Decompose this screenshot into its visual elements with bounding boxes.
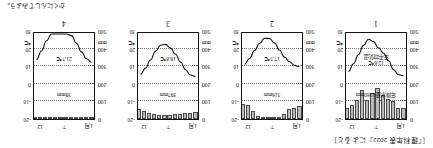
temperature-unit-label: ℃ xyxy=(232,40,239,46)
precipitation-tick-label: 100 xyxy=(306,99,314,105)
month-axis: 1月712 xyxy=(137,120,199,130)
precipitation-tick-label: 300 xyxy=(410,64,418,70)
month-tick-label: 12 xyxy=(245,124,251,130)
temperature-curve xyxy=(346,33,406,119)
month-tick-label: 7 xyxy=(375,124,378,130)
precipitation-tick-label: 500 xyxy=(410,29,418,35)
annual-precipitation-label: 38mm xyxy=(33,92,95,98)
temperature-tick-label: 0 xyxy=(236,82,239,88)
plot-area xyxy=(137,32,199,120)
temperature-tick-label: 0 xyxy=(340,82,343,88)
climograph-number-caption: 4 xyxy=(33,19,95,28)
temperature-tick-label: 30 xyxy=(233,29,239,35)
temperature-tick-label: -10 xyxy=(336,99,343,105)
climograph-row: 1月7120100200300400500mm-20-100102030℃年降水… xyxy=(0,6,433,136)
precipitation-tick-label: 100 xyxy=(98,99,106,105)
temperature-tick-label: 30 xyxy=(129,29,135,35)
climograph-1: 1月7120100200300400500mm-20-100102030℃年降水… xyxy=(329,8,433,136)
precipitation-unit-label: mm xyxy=(410,40,419,46)
temperature-tick-label: 20 xyxy=(337,47,343,53)
precipitation-axis: 0100200300400500mm xyxy=(96,26,121,126)
precipitation-unit-label: mm xyxy=(202,40,211,46)
temperature-tick-label: 10 xyxy=(233,64,239,70)
temperature-tick-label: 20 xyxy=(129,47,135,53)
annual-mean-temperature-label: 12.6℃年平均気温 xyxy=(345,54,407,66)
precipitation-axis: 0100200300400500mm xyxy=(408,26,433,126)
precipitation-tick-label: 500 xyxy=(98,29,106,35)
precipitation-tick-label: 0 xyxy=(98,117,101,123)
precipitation-tick-label: 400 xyxy=(306,47,314,53)
temperature-tick-label: 10 xyxy=(337,64,343,70)
precipitation-tick-label: 300 xyxy=(98,64,106,70)
month-tick-label: 7 xyxy=(167,124,170,130)
annual-mean-temperature-label: 21.7℃ xyxy=(33,56,95,62)
temperature-axis: -20-100102030℃ xyxy=(16,26,32,126)
precipitation-axis: 0100200300400500mm xyxy=(200,26,225,126)
annual-precipitation-label: 516mm xyxy=(241,92,303,98)
annual-mean-temperature-label-line2: 12.6℃ xyxy=(345,60,407,66)
plot-area xyxy=(241,32,303,120)
annual-mean-temperature-label: 18.8℃ xyxy=(137,56,199,62)
month-tick-label: 1月 xyxy=(396,122,405,130)
temperature-tick-label: 20 xyxy=(233,47,239,53)
temperature-tick-label: -20 xyxy=(232,117,239,123)
precipitation-tick-label: 400 xyxy=(98,47,106,53)
temperature-curve xyxy=(34,33,94,119)
figure-rotation-wrapper: ［『理科年表 2022』によると］ かくにんしてみよう。 1月712010020… xyxy=(0,0,433,148)
precipitation-unit-label: mm xyxy=(306,40,315,46)
precipitation-tick-label: 500 xyxy=(202,29,210,35)
temperature-tick-label: -20 xyxy=(128,117,135,123)
plot-area xyxy=(345,32,407,120)
temperature-tick-label: 30 xyxy=(25,29,31,35)
month-tick-label: 12 xyxy=(37,124,43,130)
precipitation-tick-label: 200 xyxy=(98,82,106,88)
climograph-number-caption: 1 xyxy=(345,19,407,28)
temperature-tick-label: 30 xyxy=(337,29,343,35)
temperature-curve xyxy=(242,33,302,119)
month-tick-label: 7 xyxy=(63,124,66,130)
figure-source-caption: ［『理科年表 2022』によると］ xyxy=(330,136,429,146)
month-axis: 1月712 xyxy=(33,120,95,130)
month-tick-label: 1月 xyxy=(292,122,301,130)
temperature-tick-label: -20 xyxy=(24,117,31,123)
temperature-unit-label: ℃ xyxy=(24,40,31,46)
temperature-tick-label: -10 xyxy=(232,99,239,105)
month-tick-label: 1月 xyxy=(188,122,197,130)
temperature-unit-label: ℃ xyxy=(336,40,343,46)
temperature-axis: -20-100102030℃ xyxy=(224,26,240,126)
temperature-tick-label: 20 xyxy=(25,47,31,53)
climograph-number-caption: 2 xyxy=(241,19,303,28)
plot-area xyxy=(33,32,95,120)
precipitation-tick-label: 200 xyxy=(202,82,210,88)
temperature-curve xyxy=(138,33,198,119)
month-axis: 1月712 xyxy=(345,120,407,130)
precipitation-tick-label: 400 xyxy=(410,47,418,53)
temperature-tick-label: 0 xyxy=(28,82,31,88)
precipitation-axis: 0100200300400500mm xyxy=(304,26,329,126)
precipitation-tick-label: 100 xyxy=(410,99,418,105)
annual-precipitation-label: 397mm xyxy=(137,92,199,98)
climograph-2: 1月7120100200300400500mm-20-100102030℃516… xyxy=(225,8,329,136)
temperature-tick-label: 10 xyxy=(25,64,31,70)
temperature-unit-label: ℃ xyxy=(128,40,135,46)
temperature-tick-label: 0 xyxy=(132,82,135,88)
precipitation-tick-label: 0 xyxy=(410,117,413,123)
month-tick-label: 12 xyxy=(141,124,147,130)
temperature-tick-label: -10 xyxy=(128,99,135,105)
precipitation-tick-label: 400 xyxy=(202,47,210,53)
annual-precipitation-label: 年降水量 1260mm xyxy=(345,92,407,98)
temperature-tick-label: 10 xyxy=(129,64,135,70)
precipitation-tick-label: 0 xyxy=(202,117,205,123)
climograph-4: 1月7120100200300400500mm-20-100102030℃38m… xyxy=(17,8,121,136)
climograph-3: 1月7120100200300400500mm-20-100102030℃397… xyxy=(121,8,225,136)
annual-mean-temperature-label-line1: 年平均気温 xyxy=(345,54,407,60)
precipitation-tick-label: 500 xyxy=(306,29,314,35)
temperature-axis: -20-100102030℃ xyxy=(120,26,136,126)
month-tick-label: 1月 xyxy=(84,122,93,130)
annual-mean-temperature-label: 17.5℃ xyxy=(241,56,303,62)
precipitation-tick-label: 0 xyxy=(306,117,309,123)
temperature-tick-label: -10 xyxy=(24,99,31,105)
precipitation-tick-label: 300 xyxy=(306,64,314,70)
precipitation-tick-label: 200 xyxy=(410,82,418,88)
precipitation-unit-label: mm xyxy=(98,40,107,46)
